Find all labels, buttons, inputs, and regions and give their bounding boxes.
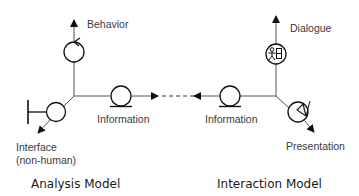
diagram-canvas: Behavior Information Interface (non-huma…	[0, 0, 359, 196]
dialogue-label: Dialogue	[290, 22, 332, 34]
analysis-model-title: Analysis Model	[31, 177, 120, 191]
interface-arrow	[38, 120, 50, 133]
interaction-information-label: Information	[205, 113, 258, 125]
dialogue-object-icon	[266, 44, 286, 64]
analysis-model: Behavior Information Interface (non-huma…	[16, 18, 158, 191]
behavior-label: Behavior	[87, 18, 129, 30]
entity-object-icon	[219, 86, 241, 107]
control-object-icon	[64, 38, 84, 62]
boundary-object-icon	[28, 100, 66, 124]
interaction-model: Dialogue Information Presentation Intera…	[194, 16, 345, 191]
analysis-information-label: Information	[97, 113, 150, 125]
interaction-model-title: Interaction Model	[217, 177, 322, 191]
presentation-label: Presentation	[286, 140, 345, 152]
presentation-axis	[276, 96, 289, 108]
interface-label-line1: Interface	[16, 141, 57, 153]
presentation-arrow	[304, 120, 314, 132]
presentation-object-icon	[288, 101, 310, 122]
interface-label-line2: (non-human)	[16, 154, 76, 166]
entity-object-icon	[110, 86, 132, 107]
